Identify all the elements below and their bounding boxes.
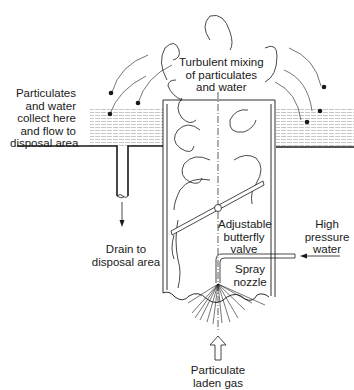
spray-lines [188,284,265,324]
label-collect: Particulates and water collect here and … [10,87,76,150]
left-water-pool [90,108,163,146]
gas-inlet-arrow-icon [210,336,226,360]
drain-arrow-icon [120,202,125,227]
label-high-pressure: High pressure water [300,218,354,256]
floor-line [17,146,354,196]
label-valve: Adjustable butterfly valve [218,218,270,256]
drain-pipe-end [117,195,128,198]
scrubber-diagram [0,0,354,390]
label-spray-nozzle: Spray nozzle [229,263,271,288]
label-drain: Drain to disposal area [86,243,166,268]
right-water-pool [276,108,354,147]
label-turbulent-mixing: Turbulent mixing of particulates and wat… [179,56,264,94]
label-particulate-gas: Particulate laden gas [185,364,251,389]
